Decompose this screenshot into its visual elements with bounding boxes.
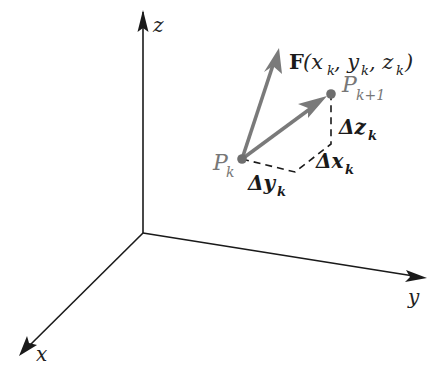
diagram-canvas: z y x F (x k , y k , z k ) P k+1 P k Δz … [0, 0, 431, 367]
x-axis-label: x [36, 342, 47, 366]
y-axis-label: y [407, 285, 420, 309]
y-axis-arrowhead-icon [405, 270, 427, 282]
y-axis [143, 233, 427, 282]
displacement-vector [242, 96, 327, 159]
force-label-args-x: (x [303, 50, 323, 74]
point-pk1 [326, 89, 336, 99]
delta-z-sub: k [368, 128, 377, 143]
delta-x-label: Δx k [315, 149, 354, 177]
force-label-sub3: k [396, 63, 404, 78]
delta-z-label: Δz k [338, 115, 377, 143]
delta-y-sub: k [277, 184, 286, 199]
delta-z-base: Δz [338, 115, 367, 139]
z-axis [138, 10, 149, 233]
pk-label-sub: k [226, 164, 234, 180]
force-label-sub2: k [361, 63, 369, 78]
x-axis [19, 233, 143, 356]
delta-y-base: Δy [247, 171, 277, 195]
x-axis-arrowhead-icon [19, 336, 37, 356]
delta-y-label: Δy k [247, 171, 286, 199]
force-label-close: ) [404, 50, 413, 74]
force-label-args-z: , z [369, 50, 394, 74]
delta-x-base: Δx [315, 149, 345, 173]
force-label-args-y: , y [334, 50, 360, 74]
point-pk [237, 154, 247, 164]
delta-x-sub: k [345, 162, 354, 177]
force-label-F: F [289, 49, 304, 74]
pk1-label-sub: k+1 [356, 87, 385, 103]
pk-label: P k [212, 150, 234, 180]
z-axis-label: z [152, 13, 164, 37]
